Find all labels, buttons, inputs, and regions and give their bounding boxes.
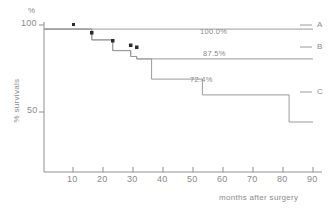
survival-plot-canvas [0,0,332,217]
y-tick-label-100: 100 [21,18,37,28]
series-label-b: B [317,42,323,51]
x-tick-label-50: 50 [187,174,198,184]
censor-mark [72,23,75,26]
y-axis-unit-label: % [28,6,35,15]
series-label-c: C [317,87,323,96]
x-tick-label-60: 60 [217,174,228,184]
annotation-pct-a: 100.0% [200,27,227,36]
x-tick-label-20: 20 [97,174,108,184]
survival-curve-figure: % 100 50 % survivals 10 20 30 40 50 60 7… [0,0,332,217]
censor-mark [111,39,115,43]
censor-mark [135,46,139,50]
annotation-pct-c: 72.4% [190,75,213,84]
x-tick-label-40: 40 [157,174,168,184]
series-line-b [44,29,313,59]
x-tick-label-30: 30 [127,174,138,184]
censor-mark [90,31,94,35]
x-tick-label-70: 70 [247,174,258,184]
censor-mark [129,44,133,48]
series-label-a: A [317,20,323,29]
x-tick-label-90: 90 [307,174,318,184]
x-axis-title: months after surgery [219,193,298,202]
y-axis-title: % survivals [12,71,21,131]
y-tick-label-50: 50 [27,105,38,115]
x-tick-label-80: 80 [277,174,288,184]
annotation-pct-b: 87.5% [203,49,226,58]
series-line-c [44,29,313,122]
x-tick-label-10: 10 [67,174,78,184]
